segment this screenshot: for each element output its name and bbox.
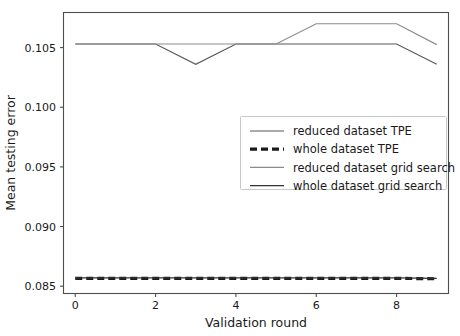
y-axis-title: Mean testing error — [3, 94, 18, 210]
y-tick-label: 0.095 — [25, 161, 57, 174]
chart-legend: reduced dataset TPEwhole dataset TPEredu… — [241, 117, 456, 193]
x-axis-title: Validation round — [205, 315, 307, 330]
line-chart-canvas: 02468 0.0850.0900.0950.1000.105 Validati… — [0, 0, 460, 336]
legend-label-2: reduced dataset grid search — [293, 161, 455, 175]
y-tick-label: 0.105 — [25, 42, 57, 55]
legend-label-1: whole dataset TPE — [293, 142, 399, 156]
legend-label-0: reduced dataset TPE — [293, 124, 412, 138]
y-tick-label: 0.100 — [25, 101, 57, 114]
y-tick-label: 0.085 — [25, 280, 57, 293]
x-tick-label: 0 — [72, 299, 79, 312]
legend-label-3: whole dataset grid search — [293, 179, 442, 193]
y-axis-tick-labels: 0.0850.0900.0950.1000.105 — [25, 42, 57, 294]
x-tick-label: 4 — [232, 299, 239, 312]
y-tick-label: 0.090 — [25, 221, 57, 234]
x-axis-tick-labels: 02468 — [72, 299, 400, 312]
series-line-0 — [75, 44, 437, 64]
x-tick-label: 6 — [313, 299, 320, 312]
x-tick-label: 8 — [393, 299, 400, 312]
x-tick-label: 2 — [152, 299, 159, 312]
chart-figure: 02468 0.0850.0900.0950.1000.105 Validati… — [0, 0, 460, 336]
series-line-2 — [75, 24, 437, 45]
